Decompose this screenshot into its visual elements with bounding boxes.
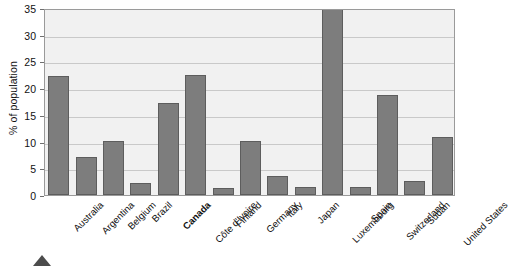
bar: [103, 141, 124, 195]
y-axis-tick-labels: 05101520253035: [0, 0, 40, 270]
bar-series: [45, 10, 454, 195]
bar: [377, 95, 398, 195]
y-tick-mark: [40, 143, 44, 144]
bar: [322, 9, 343, 195]
y-tick-label: 5: [2, 164, 36, 174]
plot-area: [44, 9, 455, 196]
y-tick-mark: [40, 9, 44, 10]
y-tick-mark: [40, 36, 44, 37]
bar: [76, 157, 97, 195]
x-tick-label: Japan: [315, 200, 341, 226]
y-tick-label: 25: [2, 57, 36, 67]
bar: [158, 103, 179, 195]
y-tick-mark: [40, 169, 44, 170]
x-tick-label: Canada: [181, 200, 213, 232]
y-tick-mark: [40, 89, 44, 90]
x-tick-label: Sudan: [425, 200, 452, 227]
bar: [267, 176, 288, 195]
bar: [48, 76, 69, 195]
bar: [350, 187, 371, 195]
bar: [432, 137, 453, 195]
y-tick-label: 0: [2, 191, 36, 201]
y-tick-label: 35: [2, 4, 36, 14]
x-tick-label: United States: [461, 200, 509, 248]
y-tick-label: 20: [2, 84, 36, 94]
y-tick-mark: [40, 116, 44, 117]
bar: [240, 141, 261, 195]
triangle-up-icon: [33, 255, 51, 266]
y-tick-mark: [40, 62, 44, 63]
bar: [130, 183, 151, 195]
y-tick-label: 10: [2, 138, 36, 148]
y-tick-label: 15: [2, 111, 36, 121]
bar: [213, 188, 234, 195]
x-tick-label: Spain: [370, 200, 394, 224]
x-tick-label: Finland: [235, 200, 264, 229]
bar: [295, 187, 316, 195]
bar: [404, 181, 425, 195]
bar: [185, 75, 206, 195]
y-tick-label: 30: [2, 31, 36, 41]
x-axis-tick-labels: AustraliaArgentinaBelgiumBrazilCanadaCôt…: [44, 196, 455, 270]
